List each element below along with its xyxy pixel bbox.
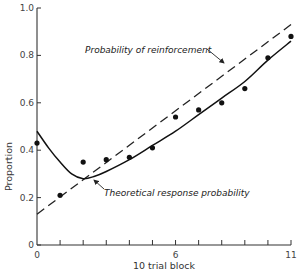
y-tick-label: 0.6 xyxy=(20,98,35,108)
data-point xyxy=(288,34,293,39)
theoretical-annotation: Theoretical response probability xyxy=(104,188,250,198)
data-point xyxy=(34,140,39,145)
theoretical-arrow xyxy=(94,180,104,189)
y-tick-label: 1.0 xyxy=(20,3,35,13)
data-point xyxy=(57,193,62,198)
data-point xyxy=(150,145,155,150)
y-axis-label: Proportion xyxy=(3,142,14,191)
x-axis-label: 10 trial block xyxy=(133,260,196,271)
data-point xyxy=(173,114,178,119)
x-tick-label: 0 xyxy=(34,250,40,260)
y-tick-label: 0.4 xyxy=(20,145,35,155)
data-point xyxy=(196,107,201,112)
chart: 00.20.40.60.81.00611 Proportion 10 trial… xyxy=(0,0,301,275)
x-axis-title: 10 trial block xyxy=(133,260,196,271)
reinforcement-arrow xyxy=(207,49,224,63)
y-tick-label: 0.2 xyxy=(20,193,34,203)
data-point xyxy=(265,55,270,60)
x-tick-label: 6 xyxy=(173,250,179,260)
data-point xyxy=(104,157,109,162)
data-point xyxy=(81,159,86,164)
data-point xyxy=(219,100,224,105)
reinforcement-annotation: Probability of reinforcement xyxy=(85,45,212,55)
y-tick-label: 0 xyxy=(28,240,34,250)
theoretical-response-curve xyxy=(37,41,291,179)
y-tick-label: 0.8 xyxy=(20,50,35,60)
data-point xyxy=(127,155,132,160)
data-point xyxy=(242,86,247,91)
annotations: Probability of reinforcementTheoretical … xyxy=(85,45,250,198)
x-tick-label: 11 xyxy=(285,250,296,260)
axes: 00.20.40.60.81.00611 xyxy=(20,3,297,260)
y-axis-title: Proportion xyxy=(3,142,14,191)
